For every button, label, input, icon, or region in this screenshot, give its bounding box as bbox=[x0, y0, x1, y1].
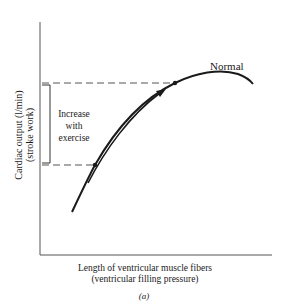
exercise-bracket bbox=[42, 85, 50, 163]
x-axis-label-line2: (ventricular filling pressure) bbox=[91, 274, 198, 285]
bracket-label-line3: exercise bbox=[58, 133, 89, 143]
panel-label: (a) bbox=[139, 291, 150, 301]
frank-starling-diagram: Normal Increase with exercise Cardiac ou… bbox=[0, 0, 285, 307]
bracket-label-line2: with bbox=[66, 121, 83, 131]
exercise-point-marker bbox=[173, 81, 177, 85]
bracket-label-line1: Increase bbox=[58, 109, 90, 119]
curve-label: Normal bbox=[210, 60, 244, 72]
y-axis-label-line2: (stroke work) bbox=[24, 108, 36, 162]
x-axis-label-line1: Length of ventricular muscle fibers bbox=[78, 263, 212, 273]
exercise-arrow bbox=[88, 93, 160, 183]
